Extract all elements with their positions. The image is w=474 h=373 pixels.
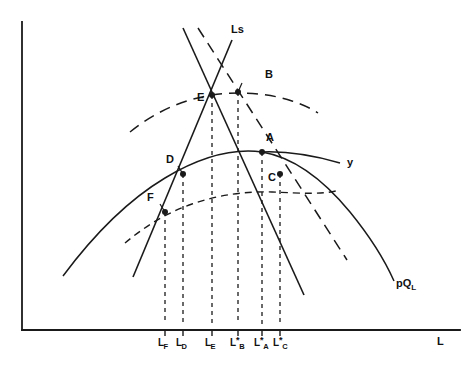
tick-sub-LB: B xyxy=(239,342,244,351)
curve-label-ls: Ls xyxy=(231,24,244,35)
tick-sub-LF: F xyxy=(164,342,169,351)
point-label-C: C xyxy=(268,172,276,183)
point-label-B: B xyxy=(265,69,273,80)
tick-label-LE: LE xyxy=(205,338,216,348)
axes-group xyxy=(22,22,460,330)
tick-sub-LC: C xyxy=(282,342,287,351)
point-label-A: A xyxy=(266,132,274,143)
x-axis-label: L xyxy=(437,336,444,347)
point-marker-A xyxy=(259,149,265,155)
curve-y xyxy=(262,152,340,163)
curve-upper-dashed xyxy=(130,93,318,132)
curve-label-y: y xyxy=(347,157,353,168)
point-label-E: E xyxy=(197,92,204,103)
tick-label-LA-star: L*A xyxy=(254,338,269,348)
diagram-canvas xyxy=(0,0,474,373)
curve-pql xyxy=(63,151,394,281)
line-demand-solid xyxy=(183,28,304,295)
drop-lines-group xyxy=(165,92,280,324)
tick-sub-LA: A xyxy=(263,342,268,351)
tick-sub-LD: D xyxy=(182,342,187,351)
point-marker-E xyxy=(209,92,215,98)
point-label-D: D xyxy=(166,154,174,165)
tick-label-LC-star: L*C xyxy=(273,338,288,348)
tick-label-LB-star: L*B xyxy=(230,338,245,348)
economics-diagram: B E A C D F Ls y pQL L LF LD LE L*B L*A … xyxy=(0,0,474,373)
point-marker-C xyxy=(277,171,283,177)
pql-subscript: L xyxy=(411,283,416,292)
tick-label-LD: LD xyxy=(176,338,188,348)
tick-sub-LE: E xyxy=(211,342,216,351)
pql-base: pQ xyxy=(396,277,411,289)
tick-label-LF: LF xyxy=(158,338,169,348)
point-label-F: F xyxy=(147,192,154,203)
curve-label-pql: pQL xyxy=(396,278,416,289)
